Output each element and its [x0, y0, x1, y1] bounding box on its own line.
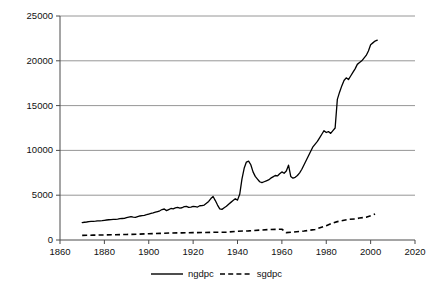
x-axis-tick-label: 1860 [36, 246, 84, 257]
x-axis-tick-label: 2020 [391, 246, 432, 257]
x-axis-tick-label: 1980 [302, 246, 350, 257]
x-axis-tick-label: 1920 [169, 246, 217, 257]
x-axis-tick-label: 1940 [214, 246, 262, 257]
legend-label-ngdpc: ngdpc [188, 268, 214, 279]
y-axis-tick-label: 10000 [0, 144, 53, 155]
chart-container: 0500010000150002000025000 18601880190019… [0, 0, 432, 294]
tick-marks [56, 16, 415, 244]
x-axis-tick-label: 1960 [258, 246, 306, 257]
y-axis-tick-label: 25000 [0, 10, 53, 21]
y-axis-tick-label: 5000 [0, 189, 53, 200]
chart-legend: ngdpc sgdpc [0, 268, 432, 279]
legend-entry-ngdpc: ngdpc [150, 268, 214, 279]
gridlines [60, 16, 415, 195]
x-axis-tick-label: 1900 [125, 246, 173, 257]
legend-swatch-dashed-icon [219, 269, 253, 279]
legend-label-sgdpc: sgdpc [257, 268, 282, 279]
legend-swatch-solid-icon [150, 269, 184, 279]
x-axis-tick-label: 2000 [347, 246, 395, 257]
y-axis-tick-label: 15000 [0, 100, 53, 111]
legend-entry-sgdpc: sgdpc [219, 268, 282, 279]
x-axis-tick-label: 1880 [80, 246, 128, 257]
y-axis-tick-label: 20000 [0, 55, 53, 66]
y-axis-tick-label: 0 [0, 234, 53, 245]
